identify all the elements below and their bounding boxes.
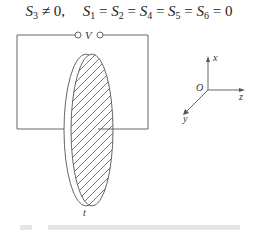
caption-fragment bbox=[48, 225, 240, 230]
coordinate-axes bbox=[183, 56, 245, 115]
figure-caption bbox=[20, 221, 240, 230]
piezo-disc-diagram: V bbox=[0, 0, 258, 230]
right-terminal-icon bbox=[97, 32, 103, 38]
caption-fragment bbox=[20, 225, 32, 230]
voltage-label: V bbox=[85, 29, 93, 41]
x-axis-label: x bbox=[212, 52, 218, 63]
piezo-disc bbox=[40, 10, 140, 230]
y-axis-label: y bbox=[182, 113, 188, 124]
origin-label: O bbox=[196, 82, 203, 93]
y-axis bbox=[186, 90, 208, 112]
left-terminal-icon bbox=[75, 32, 81, 38]
thickness-label: t bbox=[83, 207, 86, 218]
z-axis-label: z bbox=[238, 91, 243, 102]
x-axis-arrow-icon bbox=[206, 56, 210, 62]
